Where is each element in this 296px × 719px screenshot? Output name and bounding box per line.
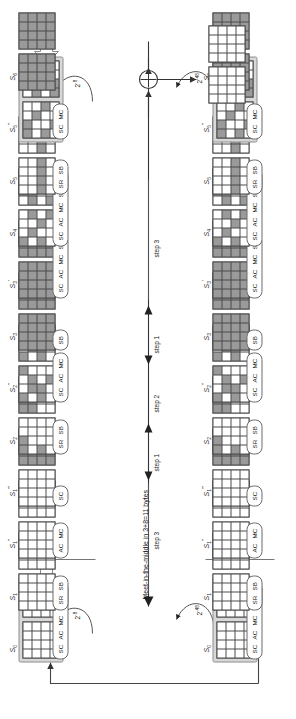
grid-cell: [222, 479, 230, 487]
grid-cell: [218, 26, 226, 34]
grid-cell: [231, 540, 239, 548]
grid-cell: [236, 67, 244, 75]
grid-cell: [209, 44, 217, 52]
grid-cell: [19, 479, 27, 487]
operation-label: SC: [57, 231, 63, 240]
grid-cell: [46, 300, 54, 308]
grid-cell: [213, 531, 221, 539]
grid-cell: [19, 40, 27, 48]
prob-label-0: 2-8: [72, 611, 80, 619]
grid-cell: [19, 13, 27, 21]
grid-cell: [46, 144, 54, 152]
grid-cell: [32, 120, 40, 128]
grid-cell: [28, 540, 36, 548]
operation-label: SB: [251, 165, 257, 174]
grid-cell: [46, 63, 54, 71]
grid-cell: [37, 248, 45, 256]
grid-cell: [218, 44, 226, 52]
state-label: S2'': [200, 383, 212, 392]
grid-cell: [218, 35, 226, 43]
grid-cell: [236, 76, 244, 84]
grid-cell: [231, 289, 239, 297]
grid-cell: [222, 427, 230, 435]
grid-cell: [227, 76, 235, 84]
grid-cell: [235, 622, 243, 630]
grid-cell: [222, 323, 230, 331]
operation-capsule: SRSB: [52, 419, 68, 454]
grid-cell: [28, 583, 36, 591]
grid-cell: [213, 158, 221, 166]
grid-cell: [213, 508, 221, 516]
operation-label: SB: [57, 335, 63, 344]
grid-cell: [19, 445, 27, 453]
operation-capsule: SRSB: [52, 575, 68, 610]
operation-label: AC: [251, 543, 257, 552]
grid-cell: [28, 404, 36, 412]
grid-cell: [37, 384, 45, 392]
grid-cell: [37, 176, 45, 184]
grid-cell: [222, 384, 230, 392]
grid-cell: [213, 210, 221, 218]
grid-cell: [37, 393, 45, 401]
grid-cell: [28, 436, 36, 444]
grid-cell: [235, 640, 243, 648]
grid-cell: [28, 185, 36, 193]
grid-cell: [231, 508, 239, 516]
grid-cell: [28, 196, 36, 204]
grid-cell: [213, 404, 221, 412]
grid-cell: [19, 210, 27, 218]
operation-capsule: SB: [52, 329, 68, 350]
operation-label: AC: [251, 217, 257, 226]
operation-label: AC: [57, 630, 63, 639]
grid-cell: [37, 185, 45, 193]
grid-cell: [226, 111, 234, 119]
state-label: S3': [200, 280, 212, 288]
grid-cell: [213, 248, 221, 256]
grid-cell: [231, 248, 239, 256]
grid-cell: [46, 40, 54, 48]
grid-cell: [231, 418, 239, 426]
grid-cell: [19, 470, 27, 478]
state-label: S1''': [200, 486, 212, 496]
grid-cell: [28, 248, 36, 256]
state-grid-left: [18, 209, 55, 246]
state-label: S1'': [6, 539, 18, 548]
operation-label: SR: [251, 439, 257, 448]
grid-cell: [19, 574, 27, 582]
grid-cell: [19, 219, 27, 227]
grid-cell: [227, 67, 235, 75]
grid-cell: [222, 583, 230, 591]
grid-cell: [19, 531, 27, 539]
grid-cell: [28, 300, 36, 308]
grid-cell: [19, 54, 27, 62]
state-grid-left: [212, 469, 249, 506]
grid-cell: [218, 67, 226, 75]
state-grid-left: [212, 573, 249, 610]
grid-cell: [217, 111, 225, 119]
grid-cell: [217, 129, 225, 137]
grid-cell: [41, 622, 49, 630]
grid-cell: [213, 237, 221, 245]
grid-cell: [28, 219, 36, 227]
grid-cell: [19, 314, 27, 322]
state-label: S2'': [6, 383, 18, 392]
grid-cell: [37, 456, 45, 464]
grid-cell: [209, 85, 217, 93]
grid-cell: [227, 94, 235, 102]
grid-cell: [213, 332, 221, 340]
grid-cell: [19, 63, 27, 71]
state-label: S5: [6, 177, 18, 184]
prob-label-3: 2-48: [194, 73, 202, 83]
grid-cell: [28, 144, 36, 152]
grid-cell: [231, 176, 239, 184]
grid-cell: [227, 44, 235, 52]
grid-cell: [19, 81, 27, 89]
state-grid-left: [18, 469, 55, 506]
grid-cell: [213, 289, 221, 297]
grid-cell: [227, 35, 235, 43]
grid-cell: [213, 352, 221, 360]
operation-label: AC: [251, 373, 257, 382]
operation-label: SC: [251, 491, 257, 500]
grid-cell: [19, 601, 27, 609]
grid-cell: [28, 384, 36, 392]
